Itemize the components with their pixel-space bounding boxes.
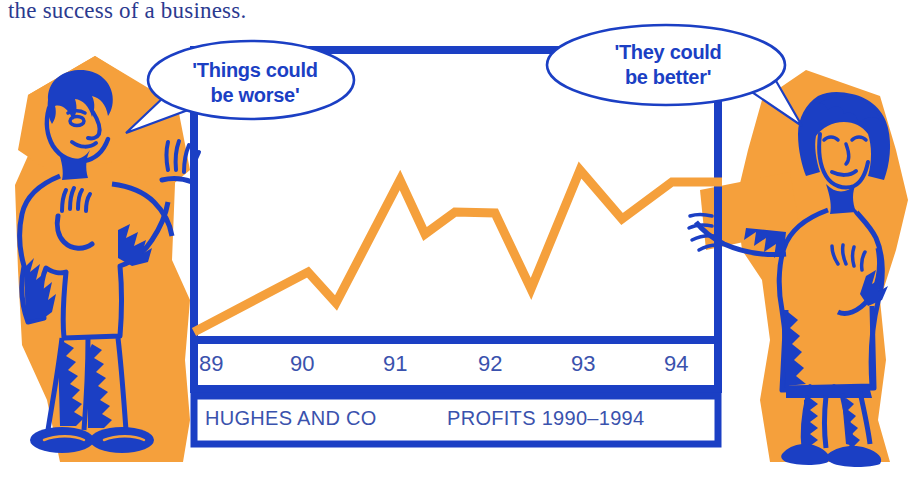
illustration-canvas: the success of a business. 'Things could… [0,0,921,482]
chart-caption-period: PROFITS 1990–1994 [447,407,644,430]
chart-axis-band [194,340,718,389]
body-text: the success of a business. [8,0,246,24]
axis-tick-89: 89 [199,351,223,377]
axis-tick-90: 90 [290,351,314,377]
axis-tick-94: 94 [664,351,688,377]
axis-tick-91: 91 [383,351,407,377]
speech-bubble-left-text: 'Things could be worse' [170,58,340,108]
chart-line-series [194,170,722,332]
man-right-wrist [162,179,192,182]
chart-caption-company: HUGHES AND CO [205,407,377,430]
speech-bubble-right-text: 'They could be better' [575,40,761,90]
axis-tick-93: 93 [571,351,595,377]
axis-tick-92: 92 [478,351,502,377]
